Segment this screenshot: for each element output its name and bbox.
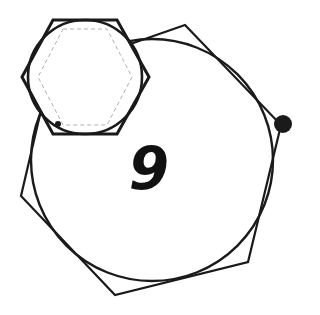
small-dot [55,121,61,127]
digit-label: 9 [126,134,172,204]
large-dot [274,115,292,133]
small-hexagon [22,20,149,134]
